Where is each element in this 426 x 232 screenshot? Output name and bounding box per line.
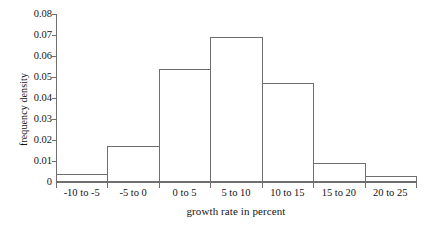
y-axis-tick-label: 0.08 [16, 9, 52, 20]
x-axis-tick-label: 15 to 20 [313, 187, 364, 199]
histogram-bar [107, 146, 160, 182]
x-axis-tick-label: 0 to 5 [159, 187, 210, 199]
y-axis-tick-mark [52, 119, 56, 120]
y-axis-tick-label: 0.01 [16, 156, 52, 167]
y-axis-tick-mark [52, 56, 56, 57]
y-axis-tick-labels: 00.010.020.030.040.050.060.070.08 [16, 14, 52, 182]
histogram-chart: frequency density 00.010.020.030.040.050… [0, 0, 426, 232]
x-axis-line [56, 182, 417, 183]
x-axis-tick-labels: -10 to -5-5 to 00 to 55 to 1010 to 1515 … [56, 187, 418, 201]
x-axis-tick-label: 10 to 15 [262, 187, 313, 199]
histogram-bar [56, 174, 108, 182]
x-axis-tick-label: 20 to 25 [365, 187, 416, 199]
x-axis-tick-label: -10 to -5 [56, 187, 107, 199]
bars-layer [56, 14, 416, 182]
y-axis-tick-mark [52, 98, 56, 99]
x-axis-title: growth rate in percent [56, 205, 416, 218]
y-axis-tick-label: 0.02 [16, 135, 52, 146]
y-axis-tick-label: 0.04 [16, 93, 52, 104]
y-axis-tick-mark [52, 35, 56, 36]
histogram-bar [313, 163, 366, 182]
plot-area [56, 14, 416, 182]
y-axis-tick-mark [52, 140, 56, 141]
y-axis-tick-label: 0.06 [16, 51, 52, 62]
y-axis-tick-label: 0.03 [16, 114, 52, 125]
histogram-bar [210, 37, 263, 182]
histogram-bar [262, 83, 314, 182]
histogram-bar [159, 69, 211, 182]
y-axis-tick-mark [52, 161, 56, 162]
y-axis-tick-label: 0.05 [16, 72, 52, 83]
y-axis-tick-label: 0.07 [16, 30, 52, 41]
x-axis-tick-label: -5 to 0 [107, 187, 158, 199]
y-axis-tick-mark [52, 77, 56, 78]
y-axis-tick-mark [52, 14, 56, 15]
histogram-bar [365, 176, 417, 182]
y-axis-tick-label: 0 [16, 177, 52, 188]
x-axis-tick-label: 5 to 10 [210, 187, 261, 199]
